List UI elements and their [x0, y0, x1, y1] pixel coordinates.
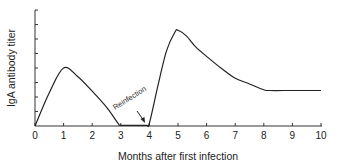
x-tick-label: 2: [89, 130, 95, 141]
arrow-head-icon: [141, 117, 146, 123]
x-axis-label: Months after first infection: [118, 150, 238, 162]
x-tick-label: 10: [315, 130, 327, 141]
y-axis-label: IgA antibody titer: [5, 28, 17, 107]
x-tick-label: 1: [61, 130, 67, 141]
x-tick-label: 6: [204, 130, 210, 141]
axes: [35, 10, 322, 126]
x-tick-label: 8: [261, 130, 267, 141]
reinfection-label: Reinfection: [111, 84, 148, 112]
chart: 012345678910 Reinfection Months after fi…: [0, 0, 337, 168]
reinfection-annotation: Reinfection: [111, 84, 148, 123]
x-tick-label: 7: [232, 130, 238, 141]
x-tick-label: 4: [147, 130, 153, 141]
x-tick-label: 0: [32, 130, 38, 141]
x-tick-label: 5: [175, 130, 181, 141]
x-tick-label: 9: [290, 130, 296, 141]
iga-titer-line: [35, 30, 321, 127]
x-tick-label: 3: [118, 130, 124, 141]
